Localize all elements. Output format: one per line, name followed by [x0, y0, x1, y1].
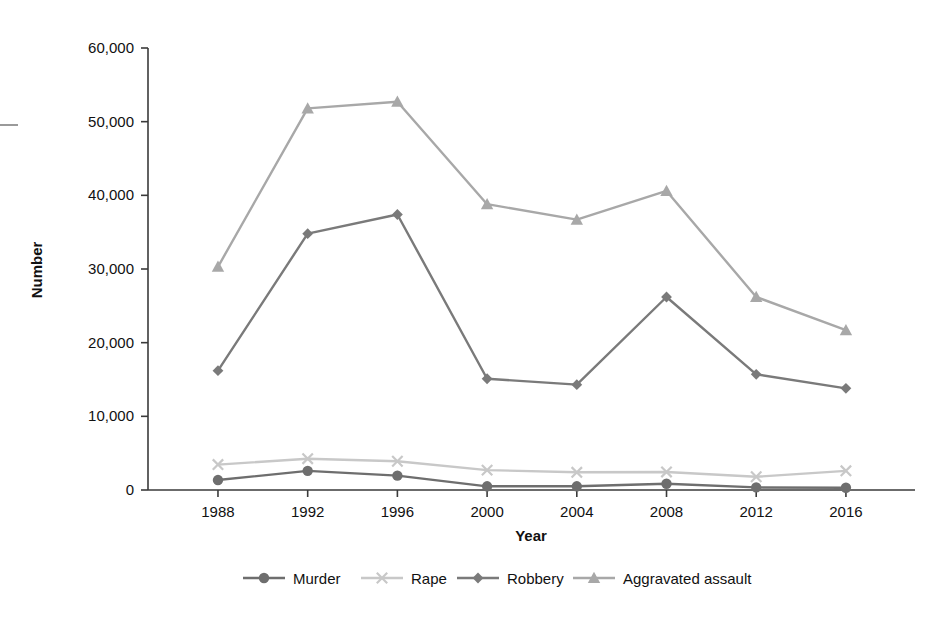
x-tick-label: 2016 — [829, 503, 862, 520]
x-tick-label: 2004 — [560, 503, 593, 520]
series-line — [218, 459, 846, 477]
data-point-marker — [661, 479, 671, 489]
legend-item-murder[interactable]: Murder — [243, 570, 341, 587]
data-point-marker — [482, 481, 492, 491]
legend-item-aggravated-assault[interactable]: Aggravated assault — [573, 570, 752, 587]
page-edge-mark — [0, 124, 18, 126]
x-tick-label: 1988 — [201, 503, 234, 520]
legend-item-label: Murder — [293, 570, 341, 587]
data-point-marker — [259, 573, 269, 583]
data-point-marker — [482, 373, 493, 384]
y-tick-label: 60,000 — [88, 39, 134, 56]
data-point-marker — [841, 483, 851, 493]
y-tick-label: 20,000 — [88, 334, 134, 351]
x-tick-label: 2012 — [740, 503, 773, 520]
data-point-marker — [751, 482, 761, 492]
x-tick-label: 2000 — [470, 503, 503, 520]
x-tick-label: 1996 — [381, 503, 414, 520]
data-point-marker — [660, 185, 672, 196]
legend-item-label: Rape — [411, 570, 447, 587]
line-chart: 010,00020,00030,00040,00050,00060,000 19… — [0, 0, 951, 621]
legend-item-rape[interactable]: Rape — [361, 570, 447, 587]
y-tick-label: 10,000 — [88, 407, 134, 424]
y-axis-title: Number — [28, 242, 45, 299]
data-point-marker — [841, 383, 852, 394]
y-tick-label: 50,000 — [88, 113, 134, 130]
legend-item-label: Aggravated assault — [623, 570, 752, 587]
y-tick-label: 40,000 — [88, 186, 134, 203]
y-tick-label: 30,000 — [88, 260, 134, 277]
data-point-marker — [302, 466, 312, 476]
data-point-marker — [473, 573, 484, 584]
x-axis-title: Year — [515, 527, 547, 544]
chart-legend: MurderRapeRobberyAggravated assault — [243, 570, 752, 587]
y-axis-ticks: 010,00020,00030,00040,00050,00060,000 — [88, 39, 148, 498]
data-point-marker — [392, 209, 403, 220]
series-aggravated-assault — [212, 96, 852, 336]
x-axis-ticks: 19881992199620002004200820122016 — [201, 490, 862, 520]
series-line — [218, 102, 846, 330]
y-tick-label: 0 — [126, 481, 134, 498]
series-murder — [213, 466, 851, 493]
legend-item-robbery[interactable]: Robbery — [457, 570, 564, 587]
chart-canvas: 010,00020,00030,00040,00050,00060,000 19… — [0, 0, 951, 621]
data-point-marker — [212, 261, 224, 272]
data-point-marker — [213, 475, 223, 485]
data-point-marker — [572, 481, 582, 491]
x-tick-label: 2008 — [650, 503, 683, 520]
data-point-marker — [392, 470, 402, 480]
series-layer — [212, 96, 852, 493]
x-tick-label: 1992 — [291, 503, 324, 520]
legend-item-label: Robbery — [507, 570, 564, 587]
